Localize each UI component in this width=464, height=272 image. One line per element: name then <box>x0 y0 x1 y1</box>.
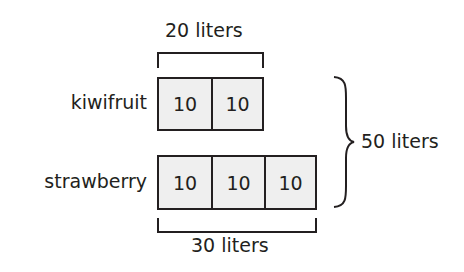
strawberry-unit-2: 10 <box>211 157 264 208</box>
strawberry-tape: 10 10 10 <box>157 155 317 210</box>
strawberry-bracket <box>158 218 316 232</box>
strawberry-unit-1: 10 <box>159 157 211 208</box>
kiwifruit-tape: 10 10 <box>157 77 264 131</box>
kiwifruit-total-label: 20 liters <box>165 19 243 41</box>
grand-total-label: 50 liters <box>361 130 439 152</box>
kiwifruit-bracket <box>158 53 263 68</box>
strawberry-unit-3: 10 <box>264 157 315 208</box>
kiwifruit-unit-1: 10 <box>159 79 211 129</box>
total-brace <box>334 77 354 207</box>
kiwifruit-row-label: kiwifruit <box>71 91 147 113</box>
kiwifruit-unit-2: 10 <box>211 79 262 129</box>
strawberry-total-label: 30 liters <box>191 234 269 256</box>
strawberry-row-label: strawberry <box>44 170 147 192</box>
